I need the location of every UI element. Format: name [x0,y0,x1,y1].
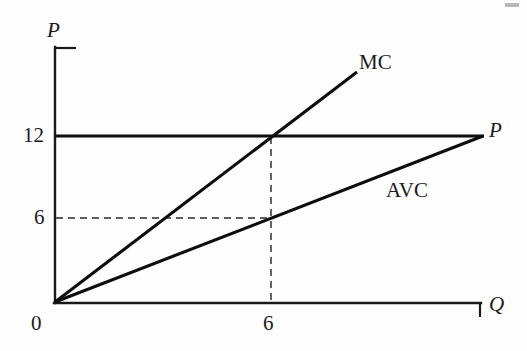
origin-label: 0 [31,313,42,334]
price-line-label: P [489,120,502,141]
avc-curve-label: AVC [386,180,428,201]
mc-curve [55,72,357,302]
economics-diagram: P P Q 12 6 0 6 MC AVC [0,0,527,351]
x-tick-label-6: 6 [263,313,274,334]
mc-curve-label: MC [359,52,392,73]
x-axis-label: Q [489,294,504,315]
y-tick-label-12: 12 [23,125,44,146]
avc-curve [55,136,483,302]
y-tick-label-6: 6 [34,207,45,228]
y-axis-label: P [47,20,60,41]
diagram-canvas [0,0,527,351]
paper-speck [505,3,519,7]
